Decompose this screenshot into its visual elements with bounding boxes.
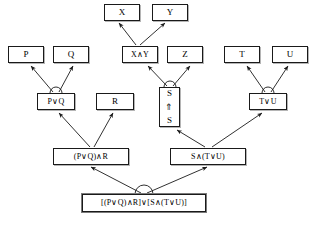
node-s-and-tu-label: S∧(T∨U) bbox=[191, 153, 225, 161]
node-s-and-tu[interactable]: S∧(T∨U) bbox=[170, 148, 246, 165]
node-root-formula-label: [(P∨Q)∧R]∨[S∧(T∨U)] bbox=[101, 199, 187, 207]
node-t-label: T bbox=[239, 50, 245, 59]
node-z[interactable]: Z bbox=[167, 46, 203, 63]
node-x-and-y-label: X∧Y bbox=[131, 51, 149, 59]
node-t-or-u-label: T∨U bbox=[259, 98, 276, 106]
edge-pqandr-to-r bbox=[94, 113, 113, 147]
node-s-bottom-label: S bbox=[160, 116, 179, 125]
node-y-label: Y bbox=[167, 8, 174, 17]
logic-decomposition-diagram: X Y P Q X∧Y Z T U P∨Q R T∨U S ⇑ S (P∨Q)∧… bbox=[0, 0, 322, 226]
edge-porq-to-q bbox=[59, 66, 73, 92]
edge-tou-to-t bbox=[247, 66, 265, 92]
edge-xandy-to-y bbox=[140, 23, 165, 45]
edge-tou-to-u bbox=[271, 66, 288, 92]
node-x[interactable]: X bbox=[104, 4, 140, 21]
edge-porq-to-p bbox=[31, 66, 53, 92]
node-r[interactable]: R bbox=[96, 93, 134, 110]
node-s-implies-s[interactable]: S ⇑ S bbox=[159, 87, 180, 127]
node-pq-and-r-label: (P∨Q)∧R bbox=[74, 153, 108, 161]
node-y[interactable]: Y bbox=[152, 4, 188, 21]
edge-sbox-to-xandy bbox=[148, 66, 167, 86]
node-x-and-y[interactable]: X∧Y bbox=[122, 46, 158, 63]
node-p-or-q[interactable]: P∨Q bbox=[37, 93, 75, 110]
node-p[interactable]: P bbox=[8, 46, 44, 63]
node-s-top-label: S bbox=[160, 89, 179, 98]
edge-root-to-pqandr bbox=[91, 167, 141, 193]
edge-sandtu-to-tou bbox=[212, 113, 262, 147]
edge-sbox-to-z bbox=[173, 66, 190, 86]
node-u-label: U bbox=[287, 50, 294, 59]
node-p-label: P bbox=[23, 50, 28, 59]
node-u[interactable]: U bbox=[272, 46, 308, 63]
node-x-label: X bbox=[119, 8, 126, 17]
node-q[interactable]: Q bbox=[53, 46, 89, 63]
node-pq-and-r[interactable]: (P∨Q)∧R bbox=[53, 148, 129, 165]
node-root-formula[interactable]: [(P∨Q)∧R]∨[S∧(T∨U)] bbox=[82, 194, 206, 212]
node-r-label: R bbox=[112, 97, 118, 106]
node-t[interactable]: T bbox=[224, 46, 260, 63]
double-up-arrow-icon: ⇑ bbox=[160, 103, 179, 112]
node-t-or-u[interactable]: T∨U bbox=[249, 93, 287, 110]
node-q-label: Q bbox=[68, 50, 75, 59]
junction-arc-root bbox=[135, 185, 153, 194]
edge-xandy-to-x bbox=[119, 23, 136, 45]
node-z-label: Z bbox=[182, 50, 188, 59]
edge-root-to-sandtu bbox=[147, 167, 207, 193]
node-p-or-q-label: P∨Q bbox=[48, 98, 65, 106]
edge-sandtu-to-sbox bbox=[177, 130, 205, 147]
edge-pqandr-to-porq bbox=[59, 113, 90, 147]
